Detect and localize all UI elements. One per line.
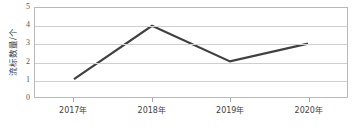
y-axis-tick-label: 2 [14, 58, 30, 66]
gridline [35, 44, 347, 45]
data-series-line [74, 26, 308, 79]
x-axis-tick-mark [309, 98, 310, 102]
line-chart: 流标数量/个 012345 2017年2018年2019年2020年 [0, 0, 357, 131]
gridline [35, 26, 347, 27]
y-axis-tick-labels: 012345 [14, 0, 30, 131]
y-axis-tick-label: 3 [14, 39, 30, 47]
gridline [35, 81, 347, 82]
x-axis-tick-label: 2019年 [216, 104, 244, 115]
gridline [35, 63, 347, 64]
y-axis-tick-label: 0 [14, 94, 30, 102]
x-axis-tick-mark [152, 98, 153, 102]
y-axis-tick-label: 5 [14, 3, 30, 11]
data-line-svg [35, 8, 347, 97]
x-axis-tick-label: 2017年 [59, 104, 87, 115]
x-axis-tick-mark [230, 98, 231, 102]
y-axis-tick-label: 4 [14, 21, 30, 29]
x-axis-tick-label: 2018年 [138, 104, 166, 115]
x-axis-tick-mark [73, 98, 74, 102]
plot-area [34, 7, 348, 98]
y-axis-tick-label: 1 [14, 76, 30, 84]
x-axis-tick-label: 2020年 [295, 104, 323, 115]
